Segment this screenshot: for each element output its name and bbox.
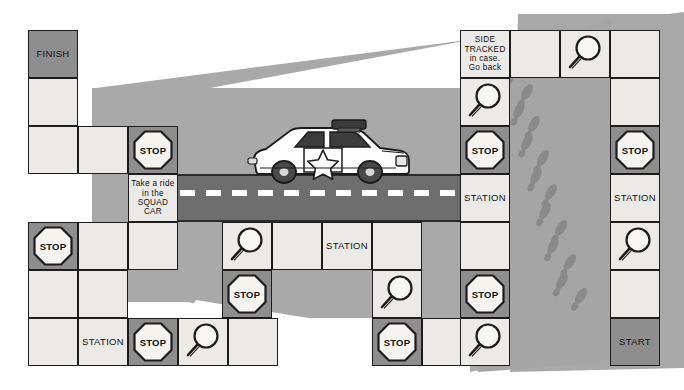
- board-cell-label: STATION: [82, 337, 124, 348]
- magnifying-glass-icon: [564, 33, 606, 75]
- stop-sign-label: STOP: [234, 289, 261, 300]
- board-cell-station-r4d[interactable]: STATION: [610, 174, 660, 222]
- car-headlight: [396, 156, 407, 166]
- stop-sign-icon: STOP: [33, 226, 73, 266]
- board-cell-squad-car[interactable]: Take a ride in the SQUAD CAR: [128, 174, 178, 222]
- board-cell-side-tracked[interactable]: SIDE TRACKED in case. Go back: [460, 30, 510, 78]
- board-cell-c-a2[interactable]: [28, 78, 78, 126]
- stop-sign-label: STOP: [140, 145, 167, 156]
- stop-sign-label: STOP: [140, 337, 167, 348]
- board-cell-mag-mid[interactable]: [222, 222, 272, 270]
- board-cell-stop-left[interactable]: STOP: [28, 222, 78, 270]
- board-cell-c-r1b[interactable]: [510, 30, 560, 78]
- stop-sign-label: STOP: [40, 241, 67, 252]
- board-cell-c-b3[interactable]: [78, 126, 128, 174]
- stop-sign-icon: STOP: [465, 274, 505, 314]
- board-cell-finish[interactable]: FINISH: [28, 30, 78, 78]
- board-cell-c-mid2[interactable]: [272, 222, 322, 270]
- board-cell-c-e7[interactable]: [228, 318, 278, 366]
- board-cell-c-r5[interactable]: [460, 222, 510, 270]
- board-cell-mag-top[interactable]: [560, 30, 610, 78]
- board-cell-label: STATION: [464, 193, 506, 204]
- board-cell-c-c5[interactable]: [128, 222, 178, 270]
- board-cell-stop-r3d[interactable]: STOP: [610, 126, 660, 174]
- stop-sign-icon: STOP: [465, 130, 505, 170]
- magnifying-glass-icon: [182, 321, 224, 363]
- magnifying-glass-icon: [614, 225, 656, 267]
- board-cell-c-a7[interactable]: [28, 318, 78, 366]
- board-cell-label: START: [619, 337, 651, 348]
- board-cell-c-r2d[interactable]: [610, 78, 660, 126]
- board-cell-stop-mid[interactable]: STOP: [222, 270, 272, 318]
- board-cell-mag-r5d[interactable]: [610, 222, 660, 270]
- car-front-hub: [366, 168, 375, 176]
- board-cell-c-a3[interactable]: [28, 126, 78, 174]
- stop-sign-label: STOP: [472, 145, 499, 156]
- board-cell-station-bl[interactable]: STATION: [78, 318, 128, 366]
- car-rear-hub: [280, 168, 289, 176]
- stop-sign-icon: STOP: [133, 322, 173, 362]
- board-cell-stop-mid2[interactable]: STOP: [372, 318, 422, 366]
- board-cell-station-mid[interactable]: STATION: [322, 222, 372, 270]
- board-cell-mag-r2[interactable]: [460, 78, 510, 126]
- magnifying-glass-icon: [226, 225, 268, 267]
- magnifying-glass-icon: [376, 273, 418, 315]
- board-cell-station-r4[interactable]: STATION: [460, 174, 510, 222]
- board-cell-mag-mid2[interactable]: [372, 270, 422, 318]
- board-cell-c-b5[interactable]: [78, 222, 128, 270]
- board-cell-stop-bl[interactable]: STOP: [128, 318, 178, 366]
- board-cell-label: Take a ride in the SQUAD CAR: [131, 179, 174, 216]
- police-car-icon: [246, 118, 416, 190]
- car-light-bar-base: [338, 128, 360, 132]
- stop-sign-label: STOP: [622, 145, 649, 156]
- stop-sign-icon: STOP: [615, 130, 655, 170]
- magnifying-glass-icon: [464, 321, 506, 363]
- stop-sign-icon: STOP: [133, 130, 173, 170]
- board-cell-c-b6[interactable]: [78, 270, 128, 318]
- board-cell-c-mid4[interactable]: [372, 222, 422, 270]
- car-mirror: [248, 158, 257, 164]
- board-cell-mag-bl[interactable]: [178, 318, 228, 366]
- board-cell-stop-r3[interactable]: STOP: [460, 126, 510, 174]
- magnifying-glass-icon: [464, 81, 506, 123]
- board-cell-start[interactable]: START: [610, 318, 660, 366]
- stop-sign-icon: STOP: [377, 322, 417, 362]
- board-cell-stop-r6[interactable]: STOP: [460, 270, 510, 318]
- board-cell-stop-squad[interactable]: STOP: [128, 126, 178, 174]
- stop-sign-label: STOP: [472, 289, 499, 300]
- board-cell-label: FINISH: [37, 49, 70, 60]
- board-cell-label: STATION: [326, 241, 368, 252]
- stop-sign-icon: STOP: [227, 274, 267, 314]
- board-cell-label: STATION: [614, 193, 656, 204]
- board-cell-c-r6d[interactable]: [610, 270, 660, 318]
- game-board: FINISHSTOPTake a ride in the SQUAD CARST…: [0, 0, 684, 390]
- board-cell-c-a6[interactable]: [28, 270, 78, 318]
- board-cell-label: SIDE TRACKED in case. Go back: [464, 35, 505, 72]
- stop-sign-label: STOP: [384, 337, 411, 348]
- board-cell-mag-r7[interactable]: [460, 318, 510, 366]
- board-cell-c-r1d[interactable]: [610, 30, 660, 78]
